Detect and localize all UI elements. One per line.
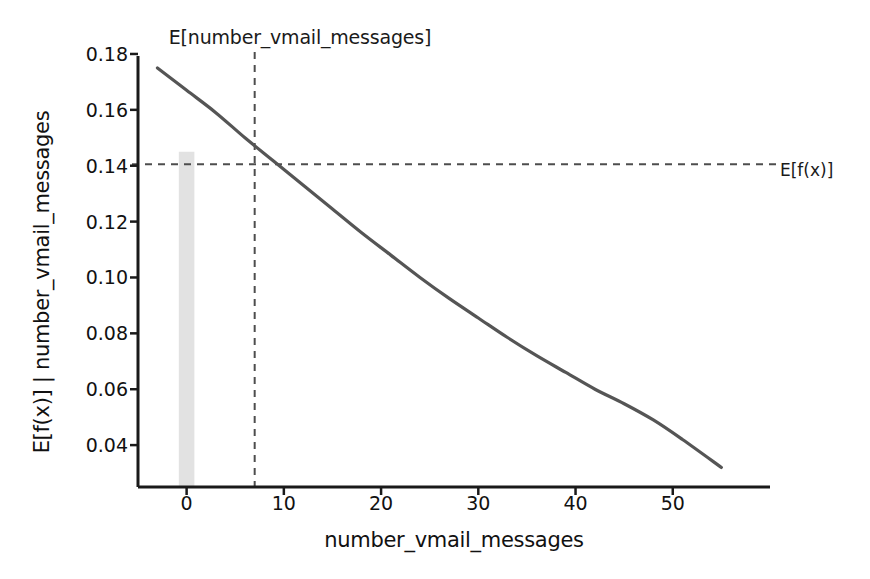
partial-dependence-curve-layer bbox=[157, 68, 721, 468]
histogram-bar bbox=[179, 152, 195, 487]
partial-dependence-plot-figure: E[number_vmail_messages] E[f(x)] | numbe… bbox=[0, 0, 870, 579]
histogram-bars-layer bbox=[179, 152, 195, 487]
plot-canvas bbox=[0, 0, 870, 579]
partial-dependence-curve bbox=[157, 68, 721, 468]
